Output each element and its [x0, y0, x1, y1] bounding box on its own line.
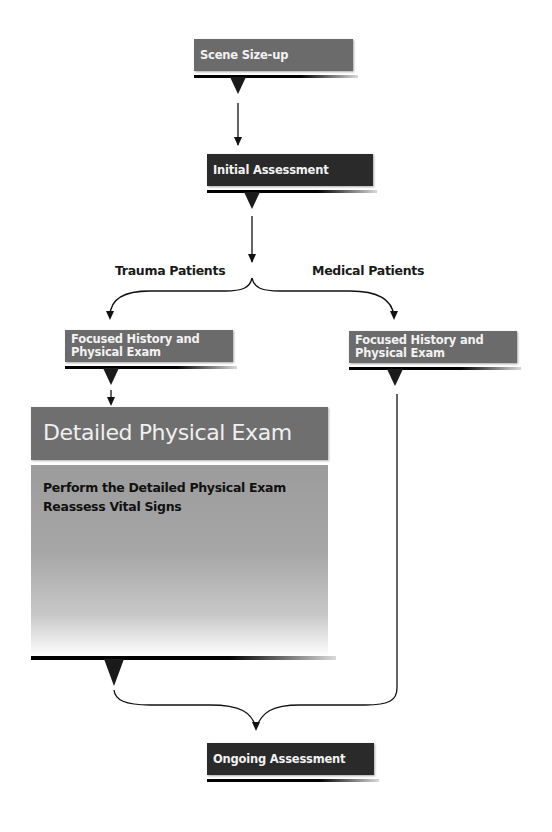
detailed-exam-item: Perform the Detailed Physical Exam	[43, 478, 328, 497]
focused-medical-box: Focused History and Physical Exam	[349, 331, 517, 363]
initial-assessment-label: Initial Assessment	[213, 164, 329, 177]
focused-trauma-pointer-icon	[103, 368, 119, 385]
detailed-exam-bar	[31, 656, 336, 660]
scene-sizeup-pointer-icon	[230, 77, 246, 94]
focused-trauma-box: Focused History and Physical Exam	[65, 330, 233, 362]
ongoing-assessment-box: Ongoing Assessment	[207, 743, 374, 775]
ongoing-assessment-bar	[207, 779, 379, 782]
scene-sizeup-box: Scene Size-up	[194, 39, 353, 71]
detailed-exam-body: Perform the Detailed Physical Exam Reass…	[31, 465, 328, 657]
branch-label-medical: Medical Patients	[312, 263, 424, 278]
initial-assessment-bar	[207, 190, 377, 193]
focused-medical-bar	[349, 367, 521, 370]
focused-medical-pointer-icon	[387, 369, 403, 386]
detailed-exam-pointer-icon	[104, 659, 124, 686]
initial-assessment-pointer-icon	[244, 192, 260, 209]
detailed-exam-item: Reassess Vital Signs	[43, 497, 328, 516]
focused-trauma-label-line2: Physical Exam	[71, 346, 161, 359]
initial-assessment-box: Initial Assessment	[207, 154, 373, 186]
focused-medical-label-line2: Physical Exam	[355, 347, 445, 360]
node-detailed-physical-exam: Detailed Physical Exam Perform the Detai…	[31, 407, 328, 657]
ongoing-assessment-label: Ongoing Assessment	[213, 753, 345, 766]
detailed-exam-title: Detailed Physical Exam	[31, 407, 328, 460]
scene-sizeup-label: Scene Size-up	[200, 49, 288, 62]
branch-label-trauma: Trauma Patients	[115, 263, 225, 278]
scene-sizeup-bar	[194, 75, 358, 78]
focused-trauma-bar	[65, 366, 237, 369]
